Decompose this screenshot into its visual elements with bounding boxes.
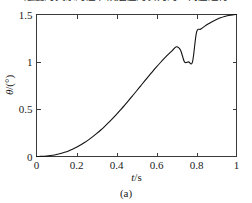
y-tick-label: 1.5 <box>19 9 33 21</box>
y-tick-labels: 00.511.5 <box>19 9 33 163</box>
figure-caption: (a) <box>120 187 133 200</box>
y-tick-label: 0 <box>27 151 33 163</box>
x-tick-labels: 00.20.40.60.81 <box>34 159 240 171</box>
x-tick-label: 1 <box>234 159 240 171</box>
y-axis-title: θ/(°) <box>3 75 16 96</box>
x-tick-label: 0.8 <box>190 159 204 171</box>
data-series-line <box>37 15 237 157</box>
y-tick-label: 0.5 <box>19 103 33 115</box>
x-tick-label: 0.6 <box>150 159 164 171</box>
figure-container: 00.20.40.60.81 00.511.5 t/s θ/(°) (a) <box>0 0 252 203</box>
x-tick-label: 0.2 <box>70 159 84 171</box>
chart-plot: 00.20.40.60.81 00.511.5 t/s θ/(°) (a) <box>0 0 252 203</box>
axis-ticks <box>37 15 237 157</box>
x-tick-label: 0 <box>34 159 40 171</box>
plot-frame <box>37 15 237 157</box>
x-axis-title: t/s <box>131 171 141 183</box>
y-tick-label: 1 <box>27 56 33 68</box>
x-tick-label: 0.4 <box>110 159 124 171</box>
